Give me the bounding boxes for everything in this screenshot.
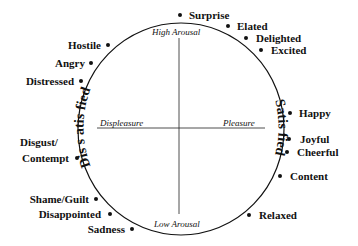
- axis-label-low-arousal: Low Arousal: [153, 219, 200, 229]
- emotion-disappointed: Disappointed: [39, 208, 112, 220]
- emotion-dot: [94, 197, 98, 201]
- emotion-label: Elated: [237, 20, 268, 32]
- emotion-dot: [178, 13, 182, 17]
- emotion-label: Disappointed: [39, 208, 101, 220]
- axis-label-displeasure: Displeasure: [99, 118, 143, 128]
- emotion-dot: [288, 111, 292, 115]
- emotion-label: Sadness: [88, 223, 126, 235]
- emotion-label: Relaxed: [259, 209, 297, 221]
- axis-label-pleasure: Pleasure: [222, 118, 255, 128]
- emotion-dot: [285, 150, 289, 154]
- emotion-label: Surprise: [189, 9, 229, 21]
- emotion-dot: [259, 48, 263, 52]
- emotion-cheerful: Cheerful: [285, 146, 339, 158]
- emotion-dot: [130, 227, 134, 231]
- emotion-label: Delighted: [256, 32, 301, 44]
- emotion-dot: [79, 79, 83, 83]
- circle-boundary: [78, 23, 284, 235]
- emotion-distressed: Distressed: [26, 75, 83, 87]
- emotion-label: Joyful: [300, 133, 329, 145]
- emotion-label: Happy: [299, 107, 331, 119]
- emotion-label: Content: [290, 170, 328, 182]
- emotion-label: Distressed: [26, 75, 74, 87]
- emotion-elated: Elated: [226, 20, 268, 32]
- emotion-relaxed: Relaxed: [247, 209, 297, 221]
- emotion-happy: Happy: [288, 107, 331, 119]
- region-satisfied: Satis fied: [272, 98, 290, 158]
- emotion-label: Angry: [55, 57, 85, 69]
- emotion-dot: [106, 43, 110, 47]
- emotion-dot: [278, 174, 282, 178]
- emotion-label: Hostile: [68, 39, 101, 51]
- emotion-label: Shame/Guilt: [30, 193, 90, 205]
- emotion-dot: [226, 24, 230, 28]
- emotion-label: Contempt: [22, 152, 69, 164]
- emotion-shame-guilt: Shame/Guilt: [30, 193, 98, 205]
- emotion-sadness: Sadness: [88, 223, 134, 235]
- region-dissatisfied: Dis s atis fied: [71, 85, 93, 170]
- emotion-label: Cheerful: [297, 146, 339, 158]
- emotion-disgust-contempt: Disgust/ Contempt: [20, 136, 79, 164]
- emotion-label: Excited: [271, 44, 306, 56]
- emotion-dot: [244, 36, 248, 40]
- emotion-hostile: Hostile: [68, 39, 110, 51]
- emotion-dot: [89, 61, 93, 65]
- emotion-dot: [247, 213, 251, 217]
- emotion-angry: Angry: [55, 57, 93, 69]
- emotion-content: Content: [278, 170, 328, 182]
- emotion-excited: Excited: [259, 44, 306, 56]
- emotion-dot: [75, 156, 79, 160]
- emotion-dot: [108, 212, 112, 216]
- emotion-surprise: Surprise: [178, 9, 229, 21]
- emotion-joyful: Joyful: [287, 133, 329, 145]
- emotion-dot: [287, 137, 291, 141]
- axis-label-high-arousal: High Arousal: [151, 27, 201, 37]
- emotion-delighted: Delighted: [244, 32, 301, 44]
- emotion-label: Disgust/: [20, 136, 59, 148]
- circumplex-diagram: High Arousal Low Arousal Displeasure Ple…: [0, 0, 358, 246]
